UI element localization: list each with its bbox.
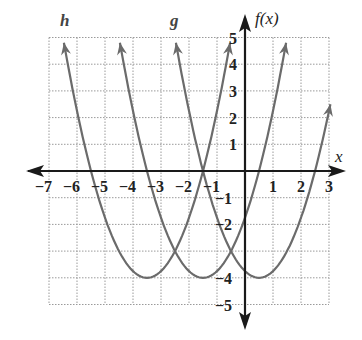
y-tick-label: 3 [229,83,237,100]
y-tick-label: 2 [229,110,237,127]
curves [61,43,333,278]
x-axis-label: x [334,147,343,166]
y-tick-label: −5 [215,297,232,314]
x-tick-label: 2 [297,178,305,195]
y-tick-label: 1 [229,136,237,153]
y-tick-label: −4 [215,270,232,287]
x-tick-label: 3 [325,178,333,195]
x-tick-label: −6 [63,178,80,195]
x-tick-label: −7 [35,178,52,195]
y-tick-label: −1 [215,190,232,207]
y-tick-label: −2 [215,216,232,233]
y-tick-label: 5 [229,30,237,47]
x-tick-label: −4 [119,178,136,195]
curve-h [64,43,230,278]
x-tick-label: −3 [147,178,164,195]
x-tick-label: −5 [91,178,108,195]
y-axis-label: f(x) [255,9,279,28]
y-tick-label: 4 [229,56,237,73]
parabola-graph: −7−6−5−4−3−2−112312345−1−2−4−5 h g f(x) … [0,0,362,340]
x-tick-label: 1 [269,178,277,195]
label-g: g [169,11,179,30]
curve-f [176,43,331,278]
label-h: h [60,11,69,30]
curve-g [120,43,286,278]
x-tick-label: −2 [175,178,192,195]
axes [26,14,346,330]
